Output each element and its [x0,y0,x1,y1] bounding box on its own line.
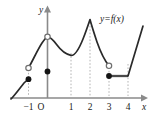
x-tick-label-4: 4 [126,102,131,112]
open-point-x-3 [106,63,111,68]
x-tick-label-1: 1 [69,102,74,112]
x-axis-arrow [141,94,148,101]
gridlines [29,19,129,96]
function-graph-figure: −1 O 1 2 3 4 x y y=f(x) [0,0,155,118]
curve-left-branch [11,79,29,99]
filled-point-x-0 [45,69,51,75]
origin-label: O [38,102,45,112]
open-point-x-0 [45,34,50,39]
filled-point-x-neg1 [26,76,32,82]
open-point-x-neg1 [26,65,31,70]
axes [10,6,148,102]
curve-rising-ray [128,26,143,76]
filled-endpoints [26,69,112,83]
function-label: y=f(x) [99,14,124,25]
x-tick-label-neg1: −1 [23,102,33,112]
y-axis-arrow [44,6,51,13]
x-tick-label-3: 3 [107,102,112,112]
x-axis-label: x [141,102,147,112]
y-axis-label: y [38,5,44,15]
filled-point-x-3 [106,73,112,79]
open-endpoints [26,34,112,71]
graph-canvas: −1 O 1 2 3 4 x y y=f(x) [0,0,155,118]
x-tick-label-2: 2 [88,102,93,112]
curve-main-branch [29,20,110,69]
